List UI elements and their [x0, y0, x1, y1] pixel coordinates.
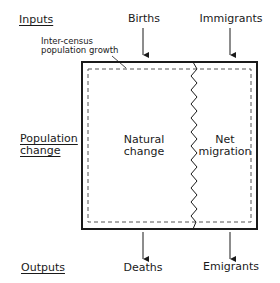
outputs-label: Outputs: [21, 262, 65, 274]
deaths-label: Deaths: [117, 262, 169, 274]
annotation-line2: population growth: [41, 46, 119, 55]
immigrants-label: Immigrants: [199, 13, 263, 25]
natural-change-label-line2: change: [118, 146, 170, 158]
emigrants-label: Emigrants: [202, 261, 260, 273]
births-label: Births: [118, 13, 170, 25]
inputs-label: Inputs: [19, 14, 53, 26]
net-migration-label-line2: migration: [196, 146, 254, 158]
population-change-label-line2: change: [20, 145, 60, 157]
